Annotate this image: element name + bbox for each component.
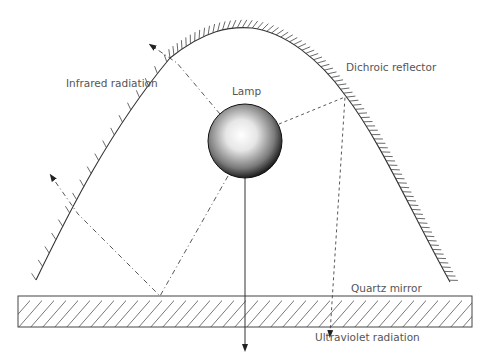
- lamp-bulb: [208, 104, 282, 178]
- ultraviolet-label: Ultraviolet radiation: [315, 331, 420, 343]
- mirror-label: Quartz mirror: [351, 282, 422, 294]
- lamp-label: Lamp: [232, 85, 262, 97]
- ir-ray-upper: [152, 46, 220, 114]
- dichroic-lamp-diagram: Infrared radiation Lamp Dichroic reflect…: [0, 0, 492, 363]
- ir-ray-lower: [52, 176, 228, 296]
- infrared-label: Infrared radiation: [66, 77, 158, 89]
- reflector-label: Dichroic reflector: [346, 61, 437, 73]
